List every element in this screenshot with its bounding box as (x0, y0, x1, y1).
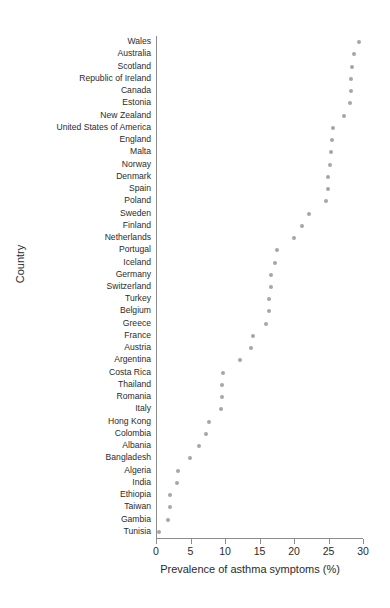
data-point (267, 309, 271, 313)
y-axis-category-label: Australia (1, 49, 151, 58)
data-point (300, 224, 304, 228)
y-axis-category-label: Algeria (1, 466, 151, 475)
x-axis-tick-label: 0 (153, 545, 159, 557)
x-axis-tick-label: 15 (254, 545, 266, 557)
data-point (264, 322, 268, 326)
x-axis-tick-label: 5 (188, 545, 194, 557)
x-axis-tick (363, 539, 364, 544)
y-axis-category-label: Malta (1, 147, 151, 156)
data-point (326, 175, 330, 179)
y-axis-category-label: Sweden (1, 209, 151, 218)
data-point (350, 65, 354, 69)
data-point (207, 420, 211, 424)
y-axis-category-label: Thailand (1, 380, 151, 389)
y-axis-category-label: Portugal (1, 245, 151, 254)
y-axis-category-label: Canada (1, 86, 151, 95)
x-axis-tick-label: 30 (357, 545, 369, 557)
y-axis-category-label: Hong Kong (1, 417, 151, 426)
y-axis-category-labels: WalesAustraliaScotlandRepublic of Irelan… (0, 0, 151, 608)
data-point (197, 444, 201, 448)
y-axis-category-label: Italy (1, 404, 151, 413)
data-point (168, 493, 172, 497)
y-axis-category-label: Iceland (1, 258, 151, 267)
x-axis-tick (329, 539, 330, 544)
y-axis-category-label: Republic of Ireland (1, 74, 151, 83)
x-axis-tick (294, 539, 295, 544)
x-axis-tick (260, 539, 261, 544)
data-point (307, 212, 311, 216)
data-point (188, 456, 192, 460)
y-axis-category-label: United States of America (1, 123, 151, 132)
y-axis-category-label: Romania (1, 392, 151, 401)
y-axis-category-label: Gambia (1, 515, 151, 524)
data-point (176, 469, 180, 473)
y-axis-category-label: Belgium (1, 306, 151, 315)
y-axis-category-label: Switzerland (1, 282, 151, 291)
y-axis-category-label: France (1, 331, 151, 340)
data-point (251, 334, 255, 338)
data-point (175, 481, 179, 485)
y-axis-category-label: Taiwan (1, 502, 151, 511)
data-point (238, 358, 242, 362)
x-axis-tick (191, 539, 192, 544)
data-point (329, 150, 333, 154)
data-point (168, 505, 172, 509)
y-axis-category-label: Netherlands (1, 233, 151, 242)
data-point (348, 101, 352, 105)
x-axis-tick (225, 539, 226, 544)
data-point (249, 346, 253, 350)
y-axis-category-label: Scotland (1, 62, 151, 71)
y-axis-category-label: Costa Rica (1, 368, 151, 377)
x-axis-title: Prevalence of asthma symptoms (%) (120, 563, 380, 575)
data-point (219, 407, 223, 411)
data-point (357, 40, 361, 44)
y-axis-category-label: India (1, 478, 151, 487)
x-axis-tick-label: 20 (288, 545, 300, 557)
data-point (349, 77, 353, 81)
data-point (221, 371, 225, 375)
data-point (342, 114, 346, 118)
y-axis-category-label: Spain (1, 184, 151, 193)
data-point (273, 261, 277, 265)
y-axis-category-label: Greece (1, 319, 151, 328)
data-point (275, 248, 279, 252)
y-axis-category-label: Bangladesh (1, 453, 151, 462)
data-point (166, 518, 170, 522)
data-point (352, 52, 356, 56)
y-axis-category-label: Germany (1, 270, 151, 279)
x-axis-tick-label: 10 (219, 545, 231, 557)
y-axis-category-label: Albania (1, 441, 151, 450)
data-point (157, 530, 161, 534)
y-axis-category-label: Denmark (1, 172, 151, 181)
data-point (324, 199, 328, 203)
y-axis-category-label: New Zealand (1, 111, 151, 120)
y-axis-category-label: Tunisia (1, 527, 151, 536)
y-axis-category-label: Colombia (1, 429, 151, 438)
data-point (269, 273, 273, 277)
data-point (267, 297, 271, 301)
y-axis-category-label: Austria (1, 343, 151, 352)
data-point (328, 163, 332, 167)
data-point (220, 383, 224, 387)
x-axis-tick (156, 539, 157, 544)
data-point (292, 236, 296, 240)
y-axis-category-label: Ethiopia (1, 490, 151, 499)
data-point (220, 395, 224, 399)
data-point (204, 432, 208, 436)
data-point (326, 187, 330, 191)
y-axis-category-label: England (1, 135, 151, 144)
plot-area (156, 36, 381, 538)
data-point (330, 138, 334, 142)
y-axis-category-label: Turkey (1, 294, 151, 303)
data-point (349, 89, 353, 93)
data-point (269, 285, 273, 289)
y-axis-category-label: Finland (1, 221, 151, 230)
y-axis-category-label: Poland (1, 196, 151, 205)
y-axis-category-label: Estonia (1, 98, 151, 107)
y-axis-category-label: Wales (1, 37, 151, 46)
asthma-prevalence-dot-chart: Country WalesAustraliaScotlandRepublic o… (0, 0, 390, 608)
x-axis-tick-label: 25 (323, 545, 335, 557)
y-axis-category-label: Argentina (1, 355, 151, 364)
y-axis-category-label: Norway (1, 160, 151, 169)
data-point (331, 126, 335, 130)
